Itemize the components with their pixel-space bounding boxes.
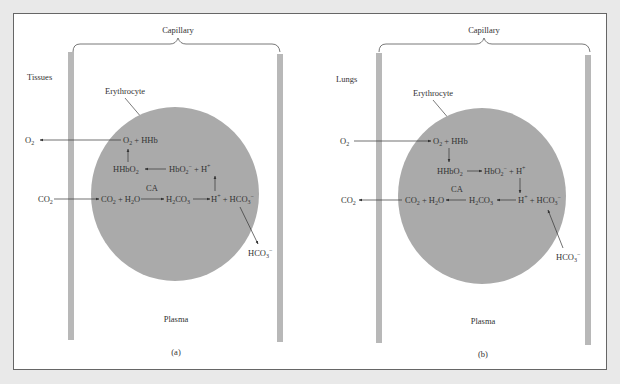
location-label-lungs: Lungs	[336, 74, 357, 84]
external-o2-in: O2	[340, 136, 349, 147]
reaction-row1-a: O2 + HHb	[123, 135, 158, 146]
enzyme-label-b: CA	[451, 184, 464, 194]
capillary-wall-left-a	[68, 52, 74, 340]
reaction-row3-a: CO2 + H2O	[101, 194, 140, 205]
capillary-label-a: Capillary	[162, 25, 194, 35]
location-label-tissues: Tissues	[27, 72, 52, 82]
hco3-external-b: HCO3−	[556, 251, 581, 263]
panel-b: Capillary Lungs Erythrocyte O2 O2 + HHb …	[336, 25, 591, 359]
external-co2-out: CO2	[341, 195, 356, 206]
capillary-wall-right-a	[277, 54, 283, 342]
external-o2-out: O2	[25, 135, 34, 146]
erythrocyte-label-b: Erythrocyte	[413, 88, 453, 98]
capillary-wall-left-b	[376, 53, 382, 343]
external-co2-in: CO2	[38, 194, 53, 205]
caption-a: (a)	[171, 347, 181, 357]
diagram: Capillary Tissues Erythrocyte O2 + HHb O…	[0, 0, 620, 384]
panel-a: Capillary Tissues Erythrocyte O2 + HHb O…	[25, 25, 283, 357]
reaction-row3-b: CO2 + H2O	[405, 195, 444, 206]
hco3-external-a: HCO3−	[248, 247, 273, 259]
enzyme-label-a: CA	[146, 183, 159, 193]
plasma-label-b: Plasma	[471, 316, 496, 326]
reaction-row2-b: HHbO2	[437, 166, 463, 177]
plasma-label-a: Plasma	[164, 314, 189, 324]
reaction-row2-a: HHbO2	[113, 164, 139, 175]
erythrocyte-label-a: Erythrocyte	[105, 86, 145, 96]
capillary-brace-b	[379, 38, 590, 52]
reaction-row1-b: O2 + HHb	[433, 136, 468, 147]
capillary-wall-right-b	[585, 55, 591, 345]
h2co3-b: H2CO3	[469, 195, 493, 206]
caption-b: (b)	[478, 349, 488, 359]
h2co3-a: H2CO3	[166, 194, 190, 205]
capillary-brace-a	[73, 38, 280, 52]
capillary-label-b: Capillary	[468, 25, 500, 35]
